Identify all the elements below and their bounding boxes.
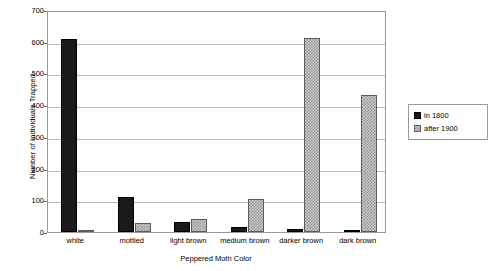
bar-mottled-after-1900[interactable] [135,223,151,232]
bar-group [48,12,105,232]
x-axis-label-mottled: mottled [104,236,161,245]
y-axis-title: Number of Individuals Trapped [28,42,37,212]
bar-white-in-1800[interactable] [61,39,77,232]
x-axis-label-dark-brown: dark brown [330,236,387,245]
bar-group [218,12,275,232]
x-axis-label-white: white [47,236,104,245]
y-axis-tick-label: 200 [4,165,44,174]
bar-white-after-1900[interactable] [78,230,94,232]
y-axis-tick-label: 400 [4,101,44,110]
y-axis-tick-label: 100 [4,196,44,205]
bar-group [105,12,162,232]
y-axis-tick-mark [43,43,47,44]
bar-darker-brown-after-1900[interactable] [304,38,320,232]
x-axis-label-light-brown: light brown [160,236,217,245]
bar-dark-brown-after-1900[interactable] [361,95,377,232]
bar-group [331,12,388,232]
legend-label-after-1900: after 1900 [424,124,458,133]
x-axis-title: Peppered Moth Color [46,254,386,263]
legend-swatch-icon-after-1900 [414,125,421,132]
bar-medium-brown-after-1900[interactable] [248,199,264,232]
y-axis-tick-mark [43,138,47,139]
legend-item-after-1900: after 1900 [414,122,483,135]
x-axis-label-medium-brown: medium brown [217,236,274,245]
y-axis-tick-mark [43,74,47,75]
y-axis-tick-label: 300 [4,133,44,142]
plot-area [47,11,386,233]
x-axis-label-darker-brown: darker brown [273,236,330,245]
y-axis-tick-mark [43,201,47,202]
bar-chart: Number of Individuals Trapped 0100200300… [0,0,499,271]
bar-group [274,12,331,232]
bar-light-brown-in-1800[interactable] [174,222,190,232]
bar-light-brown-after-1900[interactable] [191,219,207,232]
chart-legend: in 1800 after 1900 [408,104,488,140]
bar-darker-brown-in-1800[interactable] [287,229,303,232]
legend-swatch-icon-in-1800 [414,112,421,119]
bar-group [161,12,218,232]
bar-dark-brown-in-1800[interactable] [344,230,360,232]
legend-item-in-1800: in 1800 [414,109,483,122]
y-axis-tick-label: 700 [4,6,44,15]
y-axis-tick-mark [43,170,47,171]
legend-label-in-1800: in 1800 [424,111,449,120]
bar-mottled-in-1800[interactable] [118,197,134,232]
y-axis-tick-label: 600 [4,38,44,47]
y-axis-tick-label: 500 [4,69,44,78]
y-axis-tick-label: 0 [4,228,44,237]
y-axis-tick-mark [43,106,47,107]
y-axis-tick-mark [43,11,47,12]
bar-medium-brown-in-1800[interactable] [231,227,247,232]
y-axis-tick-mark [43,233,47,234]
